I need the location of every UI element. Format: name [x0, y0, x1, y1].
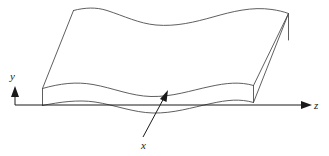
x-axis-leader-line	[143, 96, 165, 137]
diagram-canvas: z y x	[0, 0, 329, 156]
x-axis-callout-group: x	[140, 90, 168, 151]
wavy-surface-figure: z y x	[0, 0, 329, 156]
y-axis-arrowhead-icon	[11, 86, 19, 97]
surface-left-slant-edge	[43, 11, 74, 89]
surface-top-wave-path	[74, 8, 289, 25]
surface-front-upper-wave	[43, 83, 254, 96]
surface-front-lower-wave	[43, 100, 254, 113]
z-axis-group: z	[15, 99, 319, 111]
x-axis-label: x	[140, 139, 146, 151]
y-axis-label: y	[9, 70, 15, 82]
y-axis-group: y	[9, 70, 19, 105]
surface-right-slant-edge-inner	[254, 14, 289, 103]
z-axis-label: z	[313, 99, 319, 111]
z-axis-arrowhead-icon	[301, 101, 312, 109]
surface-right-slant-edge-outer	[254, 14, 289, 86]
